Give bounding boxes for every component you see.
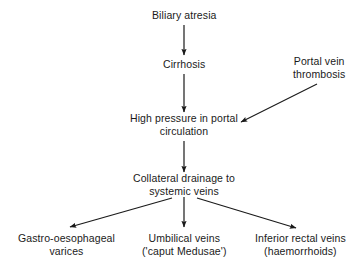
node-label-line: systemic veins: [133, 185, 235, 198]
node-biliary-atresia: Biliary atresia: [152, 9, 217, 22]
arrow-collateral-drainage-to-gastro-oesophageal-varices: [70, 198, 172, 227]
arrow-collateral-drainage-to-inferior-rectal-veins: [197, 198, 296, 228]
node-inferior-rectal-veins: Inferior rectal veins(haemorrhoids): [255, 232, 346, 257]
flowchart-diagram: Biliary atresiaCirrhosisPortal veinthrom…: [0, 0, 359, 264]
arrow-portal-vein-thrombosis-to-high-pressure: [241, 84, 317, 122]
node-label-line: High pressure in portal: [130, 112, 238, 125]
node-label-line: Umbilical veins: [142, 232, 227, 245]
node-label-line: Cirrhosis: [163, 58, 205, 71]
node-label-line: circulation: [130, 125, 238, 138]
node-collateral-drainage-systemic-veins: Collateral drainage tosystemic veins: [133, 172, 235, 197]
node-label-line: Inferior rectal veins: [255, 232, 346, 245]
node-cirrhosis: Cirrhosis: [163, 58, 205, 71]
node-label-line: Gastro-oesophageal: [18, 232, 115, 245]
node-high-pressure-portal-circulation: High pressure in portalcirculation: [130, 112, 238, 137]
node-umbilical-veins: Umbilical veins('caput Medusae'): [142, 232, 227, 257]
node-portal-vein-thrombosis: Portal veinthrombosis: [293, 55, 345, 80]
node-gastro-oesophageal-varices: Gastro-oesophagealvarices: [18, 232, 115, 257]
node-label-line: Collateral drainage to: [133, 172, 235, 185]
node-label-line: thrombosis: [293, 68, 345, 81]
node-label-line: (haemorrhoids): [255, 245, 346, 258]
node-label-line: Biliary atresia: [152, 9, 217, 22]
node-label-line: ('caput Medusae'): [142, 245, 227, 258]
node-label-line: varices: [18, 245, 115, 258]
node-label-line: Portal vein: [293, 55, 345, 68]
